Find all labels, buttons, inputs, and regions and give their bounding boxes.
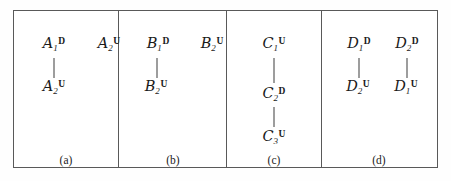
connector-a1d-a2u	[54, 58, 55, 78]
node-superscript: D	[412, 36, 419, 46]
panel-caption-a: (a)	[60, 154, 73, 166]
connector-d2d-d1u	[407, 58, 408, 78]
node-c2d: C2D	[263, 86, 286, 103]
panel-caption-b: (b)	[166, 154, 179, 166]
node-letter: B	[201, 35, 211, 51]
connector-d1d-d2u	[359, 58, 360, 78]
node-letter: B	[147, 35, 157, 51]
node-b2u-child: B2U	[145, 79, 168, 96]
node-letter: A	[43, 78, 53, 94]
node-subscript: 3	[274, 137, 279, 147]
node-letter: A	[98, 35, 108, 51]
node-letter: C	[263, 85, 274, 101]
node-d2d: D2D	[395, 36, 418, 53]
node-subscript: 1	[359, 44, 364, 54]
panel-caption-c: (c)	[268, 154, 281, 166]
node-a2u-isolated: A2U	[98, 36, 120, 53]
node-superscript: U	[363, 79, 370, 89]
node-superscript: D	[364, 36, 371, 46]
panel-d: D1DD2DD2UD1U(d)	[321, 11, 439, 167]
node-subscript: 2	[274, 94, 279, 104]
node-superscript: U	[279, 129, 286, 139]
node-superscript: D	[162, 36, 169, 46]
node-letter: B	[145, 78, 155, 94]
node-superscript: U	[279, 36, 286, 46]
node-superscript: D	[279, 86, 286, 96]
node-superscript: D	[58, 36, 65, 46]
node-superscript: U	[216, 36, 223, 46]
node-b2u-isolated: B2U	[201, 36, 224, 53]
panel-a: A1DA2UA2U(a)	[14, 11, 118, 167]
node-b1d: B1D	[147, 36, 170, 53]
figure-root: A1DA2UA2U(a)B1DB2UB2U(b)C1UC2DC3U(c)D1DD…	[0, 0, 451, 181]
panel-b: B1DB2UB2U(b)	[118, 11, 226, 167]
node-c1u: C1U	[263, 36, 286, 53]
node-superscript: U	[58, 79, 65, 89]
node-subscript: 2	[155, 87, 160, 97]
figure-frame: A1DA2UA2U(a)B1DB2UB2U(b)C1UC2DC3U(c)D1DD…	[13, 10, 438, 168]
connector-c2d-c3u	[274, 107, 275, 127]
panel-caption-d: (d)	[372, 154, 385, 166]
connector-c1u-c2d	[274, 58, 275, 83]
node-superscript: U	[411, 79, 418, 89]
node-subscript: 1	[157, 44, 162, 54]
node-c3u: C3U	[263, 129, 286, 146]
node-letter: D	[347, 35, 358, 51]
node-letter: D	[346, 78, 357, 94]
node-d1d: D1D	[347, 36, 370, 53]
node-subscript: 2	[358, 87, 363, 97]
node-subscript: 2	[407, 44, 412, 54]
node-subscript: 1	[274, 44, 279, 54]
node-letter: D	[394, 78, 405, 94]
panel-c: C1UC2DC3U(c)	[226, 11, 321, 167]
node-superscript: U	[160, 79, 167, 89]
node-letter: C	[263, 128, 274, 144]
node-subscript: 2	[211, 44, 216, 54]
node-a2u-child: A2U	[43, 79, 65, 96]
node-d2u: D2U	[346, 79, 369, 96]
node-letter: C	[263, 35, 274, 51]
node-subscript: 1	[406, 87, 411, 97]
node-a1d: A1D	[43, 36, 65, 53]
node-letter: D	[395, 35, 406, 51]
connector-b1d-b2u	[157, 58, 158, 78]
node-letter: A	[43, 35, 53, 51]
node-d1u: D1U	[394, 79, 417, 96]
